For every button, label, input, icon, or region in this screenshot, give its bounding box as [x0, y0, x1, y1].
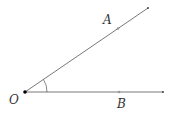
- ray-oa: [25, 8, 148, 92]
- label-o: O: [9, 93, 19, 107]
- ray-end-b: [162, 91, 164, 93]
- angle-diagram: O A B: [0, 0, 174, 115]
- point-a: [117, 27, 120, 30]
- angle-arc: [44, 80, 48, 93]
- vertex-point-o: [23, 90, 27, 94]
- label-b: B: [116, 97, 126, 111]
- ray-end-a: [147, 7, 149, 9]
- point-b: [118, 91, 121, 94]
- label-a: A: [102, 13, 112, 27]
